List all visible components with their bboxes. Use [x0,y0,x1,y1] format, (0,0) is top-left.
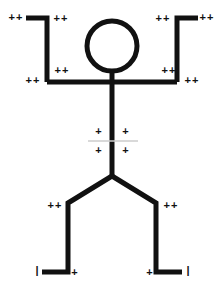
left-leg-line [42,176,112,272]
head-circle [87,21,137,71]
right-arm-line [177,18,198,82]
left-arm-line [26,18,47,82]
stick-figure-drawing [0,0,223,288]
figure-canvas: ++++++++++++++++++++++++|++| [0,0,223,288]
right-leg-line [112,176,182,272]
